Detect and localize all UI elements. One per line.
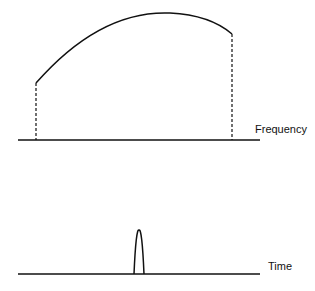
- diagram-canvas: Frequency Time: [0, 0, 315, 291]
- frequency-panel: Frequency: [18, 13, 307, 140]
- time-panel: Time: [18, 230, 292, 274]
- time-axis-label: Time: [268, 260, 292, 272]
- time-pulse: [134, 230, 144, 274]
- frequency-axis-label: Frequency: [255, 123, 307, 135]
- spectrum-curve: [36, 13, 232, 83]
